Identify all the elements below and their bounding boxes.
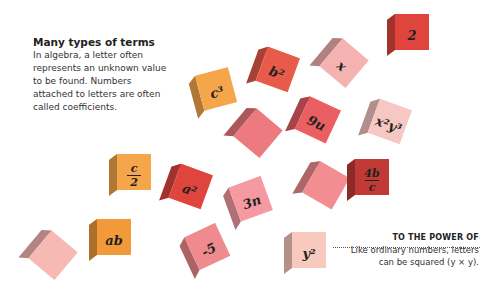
annotation-title: TO THE POWER OF — [339, 233, 479, 242]
cube-term-label — [290, 155, 353, 218]
cube-term-label: 3n — [219, 174, 278, 233]
term-cube: c³ — [185, 65, 241, 121]
cube-term-label: c³ — [185, 65, 241, 121]
term-cube: a² — [157, 159, 216, 218]
intro-body: In algebra, a letter often represents an… — [33, 49, 173, 114]
term-cube: y² — [282, 230, 328, 276]
term-cube: -5 — [174, 220, 235, 281]
cube-term-label: x — [307, 31, 372, 96]
cube-term-label: y² — [282, 230, 328, 276]
term-cube: x²y³ — [356, 94, 415, 153]
term-cube: 4bc — [345, 157, 391, 203]
cube-term-label: 2 — [385, 12, 431, 58]
term-cube: 2 — [385, 12, 431, 58]
annotation-body: Like ordinary numbers, letters can be sq… — [339, 244, 479, 268]
term-cube: b² — [244, 42, 303, 101]
term-cube — [16, 223, 81, 288]
cube-term-label: x²y³ — [356, 94, 415, 153]
term-cube: x — [307, 31, 372, 96]
cube-term-label: b² — [244, 42, 303, 101]
cube-term-label: a² — [157, 159, 216, 218]
intro-text-block: Many types of terms In algebra, a letter… — [33, 36, 173, 114]
annotation-block: TO THE POWER OF Like ordinary numbers, l… — [339, 233, 479, 268]
term-cube — [290, 155, 353, 218]
cube-term-label — [16, 223, 81, 288]
cube-term-label: 9u — [282, 90, 343, 151]
term-cube: 9u — [282, 90, 343, 151]
term-cube: ab — [87, 217, 133, 263]
cube-term-label: -5 — [174, 220, 235, 281]
cube-term-label: 4bc — [345, 157, 391, 203]
cube-term-label: ab — [87, 217, 133, 263]
term-cube: 3n — [219, 174, 278, 233]
cube-term-label: c2 — [107, 152, 153, 198]
term-cube: c2 — [107, 152, 153, 198]
intro-title: Many types of terms — [33, 36, 173, 49]
